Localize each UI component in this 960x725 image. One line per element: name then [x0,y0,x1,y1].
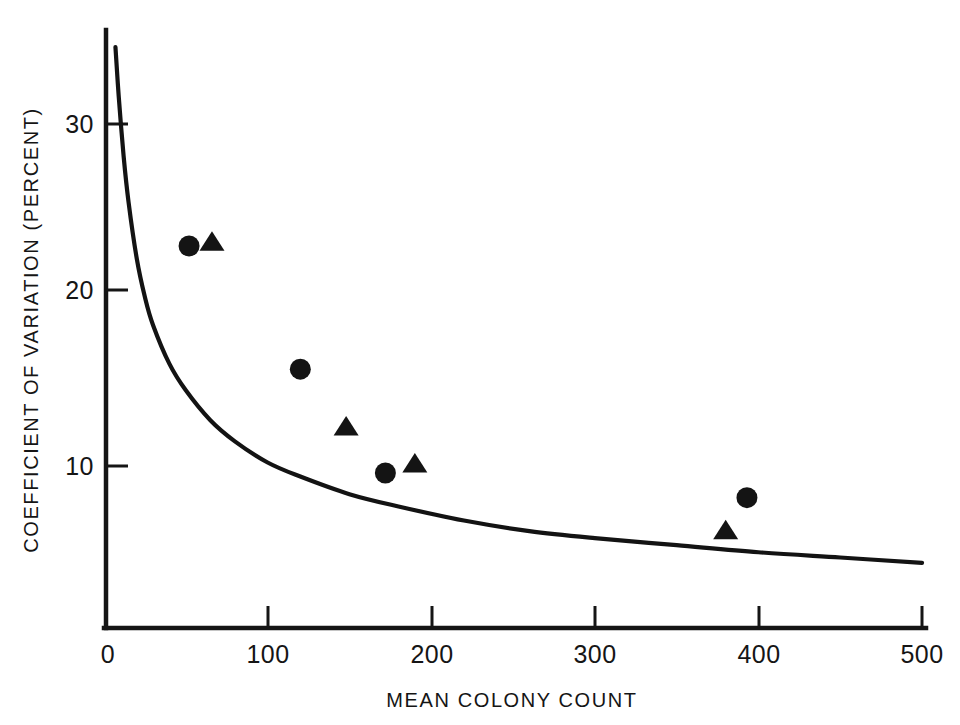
data-point-triangle [713,520,738,540]
x-axis-title: MEAN COLONY COUNT [386,689,637,711]
data-point-triangle [334,416,359,436]
data-point-circle [290,359,311,380]
x-tick-label-200: 200 [410,640,453,668]
x-tick-label-0: 0 [101,640,115,668]
x-tick-label-400: 400 [737,640,780,668]
data-point-triangle [402,453,427,473]
y-tick-label-10: 10 [65,452,94,480]
y-tick-label-20: 20 [65,276,94,304]
y-axis-title: COEFFICIENT OF VARIATION (PERCENT) [20,107,42,553]
chart-canvas: 30 20 10 0 100 200 300 400 500 MEAN COLO… [0,0,960,725]
y-tick-label-30: 30 [65,110,94,138]
figure-container: 30 20 10 0 100 200 300 400 500 MEAN COLO… [0,0,960,725]
data-point-triangle [199,231,224,251]
x-axis-ticks [268,606,922,628]
triangle-marker-group [199,231,738,539]
theoretical-curve [115,47,922,563]
x-tick-label-500: 500 [900,640,943,668]
data-point-circle [179,236,200,257]
circle-marker-group [179,236,758,509]
axes-group [104,30,926,628]
x-tick-label-100: 100 [246,640,289,668]
x-tick-label-300: 300 [573,640,616,668]
data-point-circle [375,463,396,484]
data-point-circle [736,487,757,508]
